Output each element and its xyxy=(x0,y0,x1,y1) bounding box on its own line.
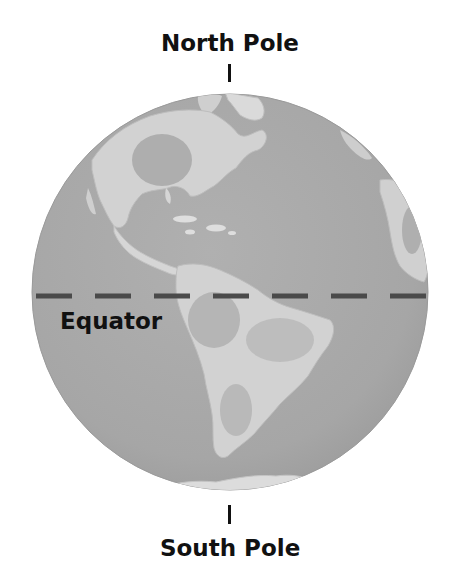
north-pole-marker xyxy=(228,64,231,82)
north-pole-label: North Pole xyxy=(160,30,300,56)
land-shadow-sa-south xyxy=(220,384,252,436)
land-shadow-sa-east xyxy=(246,318,314,362)
island-small xyxy=(228,231,236,235)
equator-label: Equator xyxy=(60,308,162,334)
south-pole-marker xyxy=(228,505,231,524)
land-shadow-sa-north xyxy=(188,292,240,348)
island-jamaica xyxy=(185,230,195,235)
south-pole-label: South Pole xyxy=(160,535,300,561)
globe-illustration xyxy=(0,0,457,588)
land-shadow-na xyxy=(132,134,192,186)
island-hispaniola xyxy=(206,225,226,232)
island-cuba xyxy=(173,216,197,223)
